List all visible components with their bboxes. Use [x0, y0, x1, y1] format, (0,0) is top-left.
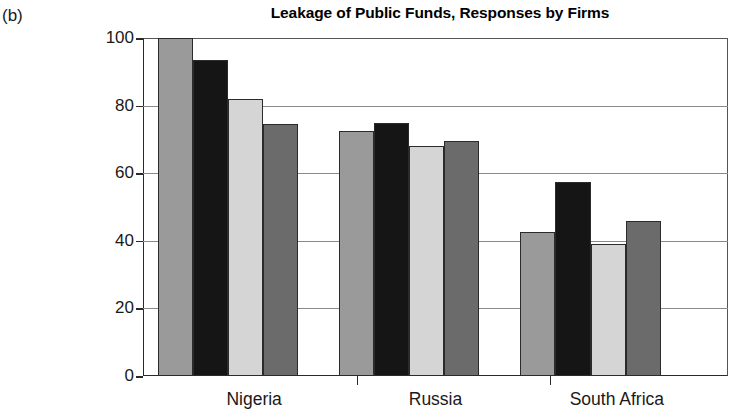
bar-russia-3: [409, 146, 444, 376]
x-tick-mark: [550, 376, 552, 385]
plot-area: 020406080100 NigeriaRussiaSouth Africa: [143, 38, 728, 376]
panel-label: (b): [2, 6, 23, 26]
bar-russia-4: [444, 141, 479, 376]
bar-russia-1: [339, 131, 374, 376]
y-tick-mark: [136, 241, 143, 243]
bar-nigeria-1: [158, 38, 193, 376]
y-tick-label: 40: [115, 231, 134, 251]
x-category-label-south-africa: South Africa: [570, 389, 664, 410]
y-tick-label: 20: [115, 298, 134, 318]
bar-russia-2: [374, 123, 409, 377]
y-tick-label: 60: [115, 163, 134, 183]
chart-title: Leakage of Public Funds, Responses by Fi…: [150, 4, 730, 22]
bar-south-africa-1: [520, 232, 555, 376]
y-tick-mark: [136, 376, 143, 378]
y-tick-mark: [136, 173, 143, 175]
y-tick-mark: [136, 106, 143, 108]
y-tick-mark: [136, 308, 143, 310]
x-category-label-russia: Russia: [409, 389, 463, 410]
bar-south-africa-2: [555, 182, 590, 376]
figure-panel-b: (b) Leakage of Public Funds, Responses b…: [0, 0, 754, 415]
bar-nigeria-2: [193, 60, 228, 376]
x-category-label-nigeria: Nigeria: [226, 389, 281, 410]
y-tick-label: 0: [125, 366, 134, 386]
y-tick-label: 100: [106, 28, 134, 48]
bar-nigeria-4: [263, 124, 298, 376]
bar-nigeria-3: [228, 99, 263, 376]
x-tick-mark: [357, 376, 359, 385]
bar-south-africa-3: [591, 244, 626, 376]
y-tick-label: 80: [115, 96, 134, 116]
y-tick-mark: [136, 38, 143, 40]
bar-south-africa-4: [626, 221, 661, 376]
